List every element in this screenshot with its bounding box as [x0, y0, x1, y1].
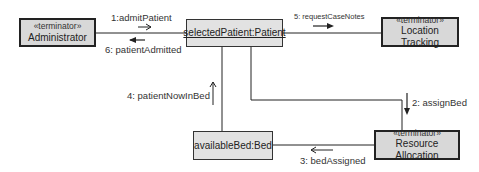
node-available-bed: availableBed:Bed [193, 131, 273, 160]
node-location-tracking: «terminator» Location Tracking [381, 17, 459, 47]
message-label-patient-now-in-bed: 4: patientNowInBed [127, 90, 210, 101]
message-label-admit-patient: 1:admitPatient [111, 12, 172, 23]
arrow-bed-assigned-icon [311, 147, 333, 153]
arrow-patient-now-in-bed-icon [210, 82, 216, 105]
arrow-patient-admitted-icon [129, 37, 145, 43]
stereotype-label: «terminator» [396, 16, 444, 26]
node-administrator: «terminator» Administrator [19, 18, 96, 47]
node-name: Location Tracking [383, 25, 457, 48]
message-label-assign-bed: 2: assignBed [412, 97, 467, 108]
node-selected-patient: selectedPatient:Patient [186, 19, 283, 47]
node-name: Resource Allocation [376, 138, 458, 161]
node-name: availableBed:Bed [194, 140, 272, 152]
stereotype-label: «terminator» [34, 22, 82, 32]
arrow-assign-bed-icon [404, 93, 410, 115]
link-patient-resource-allocation [251, 46, 402, 130]
arrow-admit-patient-icon [138, 24, 151, 30]
message-label-request-case-notes: 5: requestCaseNotes [294, 12, 364, 21]
message-label-bed-assigned: 3: bedAssigned [300, 155, 366, 166]
node-resource-allocation: «terminator» Resource Allocation [374, 130, 460, 160]
node-name: selectedPatient:Patient [183, 27, 285, 39]
message-label-patient-admitted: 6: patientAdmitted [105, 44, 182, 55]
stereotype-label: «terminator» [393, 129, 441, 139]
arrow-request-case-notes-icon [313, 23, 334, 29]
node-name: Administrator [28, 32, 87, 44]
